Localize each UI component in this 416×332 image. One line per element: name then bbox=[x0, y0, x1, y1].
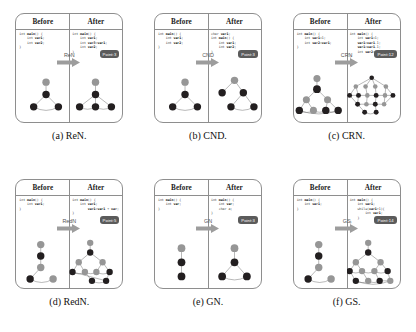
graph-after bbox=[69, 221, 122, 287]
header-after: After bbox=[208, 180, 261, 195]
panel-body: int main() { int var;}int main() { int v… bbox=[155, 195, 261, 288]
panel-caption: (a) ReN. bbox=[52, 130, 86, 141]
figure-cell-gs: BeforeAfterint main() { int var1;}int ma… bbox=[277, 166, 416, 332]
side-before: int main() { int var1;} bbox=[294, 195, 347, 288]
side-after: int main() { int var1; var1=var1 + var;} bbox=[69, 195, 122, 288]
panel-body: int main() { int var1=1; int var2=var1;}… bbox=[294, 29, 400, 122]
side-after: char var1;int main() { int var1; int var… bbox=[208, 29, 261, 122]
code-before: int main() { int var;} bbox=[158, 198, 206, 211]
panel-ren: BeforeAfterint main() { int var1; int va… bbox=[15, 13, 123, 123]
panel-body: int main() { int var1;}int main() { int … bbox=[294, 195, 400, 288]
header-after: After bbox=[69, 180, 122, 195]
side-after: int main() { int var1; while(var1>1){ in… bbox=[347, 195, 400, 288]
side-before: int main() { int var;} bbox=[155, 195, 208, 288]
graph-after bbox=[69, 55, 122, 121]
panel-gs: BeforeAfterint main() { int var1;}int ma… bbox=[293, 179, 401, 289]
point-badge: Point:14 bbox=[374, 216, 396, 224]
panel-body: int main() { int var1; int var2;}char va… bbox=[155, 29, 261, 122]
side-after: int main() { int var1=1; var1=var1-1; va… bbox=[347, 29, 400, 122]
side-after: int main() { int var; char a;} bbox=[208, 195, 261, 288]
graph-before-svg bbox=[294, 55, 347, 121]
side-before: int main() { int var1; int var2;} bbox=[155, 29, 208, 122]
side-before: int main() { int var1;} bbox=[16, 195, 69, 288]
graph-after-svg bbox=[208, 55, 261, 121]
header-before: Before bbox=[155, 180, 208, 195]
figure-grid: BeforeAfterint main() { int var1; int va… bbox=[0, 0, 416, 332]
panel-gn: BeforeAfterint main() { int var;}int mai… bbox=[154, 179, 262, 289]
side-before: int main() { int var1=1; int var2=var1;} bbox=[294, 29, 347, 122]
point-badge: Point:5 bbox=[100, 216, 120, 224]
code-after: int main() { int var1; var1=var1 + var;} bbox=[72, 198, 120, 216]
panel-crn: BeforeAfterint main() { int var1=1; int … bbox=[293, 13, 401, 123]
code-before: int main() { int var1;} bbox=[297, 198, 345, 211]
panel-caption: (d) RedN. bbox=[49, 296, 89, 307]
graph-after-svg bbox=[347, 221, 400, 287]
panel-redn: BeforeAfterint main() { int var1;}int ma… bbox=[15, 179, 123, 289]
header-before: Before bbox=[16, 14, 69, 29]
header-after: After bbox=[347, 14, 400, 29]
graph-before-svg bbox=[16, 55, 69, 121]
figure-cell-ren: BeforeAfterint main() { int var1; int va… bbox=[0, 0, 139, 166]
header-before: Before bbox=[16, 180, 69, 195]
panel-body: int main() { int var1;}int main() { int … bbox=[16, 195, 122, 288]
graph-before bbox=[294, 221, 347, 287]
panel-caption: (c) CRN. bbox=[328, 130, 365, 141]
figure-cell-cnd: BeforeAfterint main() { int var1; int va… bbox=[139, 0, 278, 166]
graph-before bbox=[16, 221, 69, 287]
code-before: int main() { int var1; int var2;} bbox=[19, 32, 67, 50]
panel-body: int main() { int var1; int var2;}int mai… bbox=[16, 29, 122, 122]
header-before: Before bbox=[294, 14, 347, 29]
graph-before-svg bbox=[155, 55, 208, 121]
code-before: int main() { int var1; int var2;} bbox=[158, 32, 206, 50]
graph-after-svg bbox=[69, 55, 122, 121]
point-badge: Point:3 bbox=[100, 50, 120, 58]
graph-after-svg bbox=[208, 221, 261, 287]
code-before: int main() { int var1=1; int var2=var1;} bbox=[297, 32, 345, 50]
figure-cell-redn: BeforeAfterint main() { int var1;}int ma… bbox=[0, 166, 139, 332]
graph-after bbox=[347, 55, 400, 121]
panel-cnd: BeforeAfterint main() { int var1; int va… bbox=[154, 13, 262, 123]
header-after: After bbox=[347, 180, 400, 195]
graph-after bbox=[208, 55, 261, 121]
code-after: int main() { int var; char a;} bbox=[211, 198, 259, 216]
graph-before-svg bbox=[294, 221, 347, 287]
panel-caption: (e) GN. bbox=[193, 296, 224, 307]
header-before: Before bbox=[294, 180, 347, 195]
code-before: int main() { int var1;} bbox=[19, 198, 67, 211]
side-before: int main() { int var1; int var2;} bbox=[16, 29, 69, 122]
graph-after bbox=[208, 221, 261, 287]
header-before: Before bbox=[155, 14, 208, 29]
point-badge: Point:12 bbox=[374, 50, 396, 58]
graph-before bbox=[155, 221, 208, 287]
graph-before bbox=[16, 55, 69, 121]
panel-caption: (f) GS. bbox=[333, 296, 361, 307]
header-after: After bbox=[69, 14, 122, 29]
panel-caption: (b) CND. bbox=[189, 130, 227, 141]
graph-before-svg bbox=[16, 221, 69, 287]
graph-after-svg bbox=[347, 55, 400, 121]
figure-cell-crn: BeforeAfterint main() { int var1=1; int … bbox=[277, 0, 416, 166]
graph-before-svg bbox=[155, 221, 208, 287]
graph-after bbox=[347, 221, 400, 287]
point-badge: Point:3 bbox=[238, 50, 258, 58]
graph-before bbox=[294, 55, 347, 121]
point-badge: Point:3 bbox=[238, 216, 258, 224]
graph-before bbox=[155, 55, 208, 121]
graph-after-svg bbox=[69, 221, 122, 287]
header-after: After bbox=[208, 14, 261, 29]
figure-cell-gn: BeforeAfterint main() { int var;}int mai… bbox=[139, 166, 278, 332]
side-after: int main() { int var1; int var3=var1; in… bbox=[69, 29, 122, 122]
